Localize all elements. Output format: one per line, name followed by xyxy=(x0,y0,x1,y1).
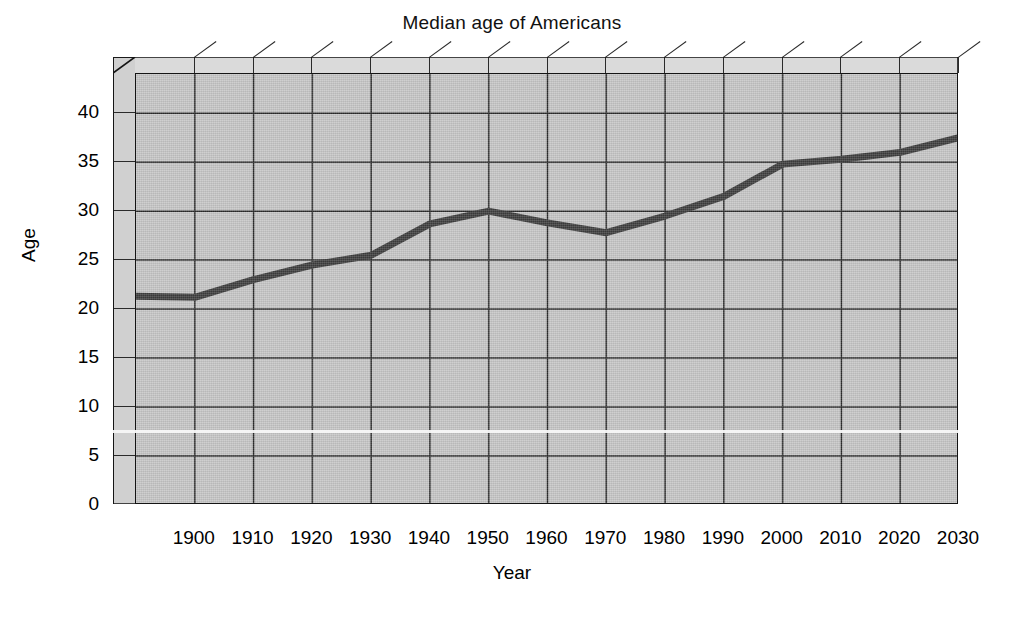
x-tick-label: 2010 xyxy=(810,528,870,547)
top-wall-bevel-segment xyxy=(311,57,312,73)
top-wall-bevel-segment xyxy=(723,57,724,73)
chart-title: Median age of Americans xyxy=(0,12,1024,34)
x-tick-label: 1930 xyxy=(340,528,400,547)
top-wall-bevel-slant xyxy=(899,41,922,58)
top-wall-bevel-slant xyxy=(488,41,511,58)
top-wall-bevel-slant xyxy=(664,41,687,58)
x-tick-label: 1990 xyxy=(693,528,753,547)
top-wall-bevel-slant xyxy=(547,41,570,58)
y-tick-label: 35 xyxy=(0,151,99,170)
top-wall-bevel-segment xyxy=(664,57,665,73)
top-wall-bevel-segment xyxy=(194,57,195,73)
top-wall-bevel-slant xyxy=(370,41,393,58)
x-tick-label: 1950 xyxy=(458,528,518,547)
chart-3d-box xyxy=(113,57,958,504)
top-wall-bevel-segment xyxy=(840,57,841,73)
top-wall-bevel-slant xyxy=(194,41,217,58)
y-axis-title: Age xyxy=(18,228,40,262)
wall-bevel-segment xyxy=(113,259,135,260)
x-tick-label: 1940 xyxy=(399,528,459,547)
y-tick-label: 30 xyxy=(0,200,99,219)
wall-bevel-segment xyxy=(113,112,135,113)
scan-artifact-line xyxy=(113,430,958,433)
wall-bevel-segment xyxy=(113,357,135,358)
y-tick-label: 0 xyxy=(0,494,99,513)
top-wall-bevel-segment xyxy=(253,57,254,73)
plot-svg xyxy=(136,74,958,504)
gridlines xyxy=(136,74,958,504)
y-tick-label: 5 xyxy=(0,445,99,464)
top-wall-bevel-segment xyxy=(958,57,959,73)
wall-bevel-segment xyxy=(113,406,135,407)
x-tick-label: 1980 xyxy=(634,528,694,547)
x-axis-title: Year xyxy=(0,562,1024,584)
top-wall-bevel-segment xyxy=(782,57,783,73)
box-left-wall xyxy=(113,57,135,504)
y-tick-label: 40 xyxy=(0,102,99,121)
x-tick-label: 1920 xyxy=(281,528,341,547)
top-wall-bevel-slant xyxy=(723,41,746,58)
top-wall-bevel-segment xyxy=(605,57,606,73)
x-tick-label: 1900 xyxy=(164,528,224,547)
box-top-wall xyxy=(113,57,958,73)
top-wall-bevel-segment xyxy=(899,57,900,73)
y-tick-label: 25 xyxy=(0,249,99,268)
wall-bevel-segment xyxy=(113,210,135,211)
top-wall-bevel-slant xyxy=(840,41,863,58)
top-wall-bevel-segment xyxy=(370,57,371,73)
top-wall-bevel-slant xyxy=(311,41,334,58)
top-wall-bevel-segment xyxy=(429,57,430,73)
y-tick-label: 15 xyxy=(0,347,99,366)
top-wall-bevel-segment xyxy=(488,57,489,73)
plot-area xyxy=(135,73,958,504)
top-wall-bevel-segment xyxy=(547,57,548,73)
x-tick-label: 1910 xyxy=(223,528,283,547)
top-wall-bevel-slant xyxy=(253,41,276,58)
x-tick-label: 1960 xyxy=(517,528,577,547)
x-tick-label: 2000 xyxy=(752,528,812,547)
y-tick-label: 10 xyxy=(0,396,99,415)
chart-figure: Median age of Americans 0510152025303540… xyxy=(0,0,1024,622)
y-tick-label: 20 xyxy=(0,298,99,317)
wall-bevel-segment xyxy=(113,455,135,456)
wall-bevel-segment xyxy=(113,308,135,309)
x-tick-label: 2020 xyxy=(869,528,929,547)
top-wall-bevel-slant xyxy=(782,41,805,58)
x-tick-label: 1970 xyxy=(575,528,635,547)
wall-bevel-segment xyxy=(113,161,135,162)
top-wall-bevel-slant xyxy=(429,41,452,58)
top-wall-bevel-slant xyxy=(605,41,628,58)
x-tick-label: 2030 xyxy=(928,528,988,547)
top-wall-bevel-slant xyxy=(958,41,981,58)
